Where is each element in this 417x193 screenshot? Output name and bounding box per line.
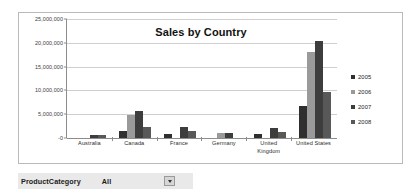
bar bbox=[217, 133, 225, 138]
bar bbox=[270, 128, 278, 138]
x-axis-labels: AustraliaCanadaFranceGermanyUnitedKingdo… bbox=[67, 140, 336, 155]
plot-area: Sales by Country 25,000,00020,000,00015,… bbox=[66, 19, 336, 154]
bar-group bbox=[158, 19, 203, 138]
parameter-dropdown-button[interactable] bbox=[164, 176, 175, 186]
bar-group bbox=[68, 19, 113, 138]
bar bbox=[323, 92, 331, 138]
bar bbox=[315, 41, 323, 138]
chart-frame: Sales by Country 25,000,00020,000,00015,… bbox=[18, 12, 403, 164]
bar-group bbox=[292, 19, 337, 138]
x-axis-label: United States bbox=[291, 140, 336, 155]
bar bbox=[98, 135, 106, 138]
x-axis-label: Canada bbox=[112, 140, 157, 155]
chevron-down-icon bbox=[168, 180, 172, 183]
x-axis-label: France bbox=[157, 140, 202, 155]
legend-swatch-icon bbox=[351, 105, 355, 109]
bar bbox=[143, 127, 151, 138]
y-axis-tick-label: 10,000,000 bbox=[35, 87, 63, 93]
parameter-value: All bbox=[102, 177, 112, 186]
y-axis-tick-label: -0 bbox=[58, 135, 63, 141]
bar bbox=[164, 134, 172, 138]
legend-label: 2007 bbox=[358, 104, 371, 110]
bar bbox=[254, 134, 262, 138]
parameter-label: ProductCategory bbox=[21, 177, 81, 186]
legend-swatch-icon bbox=[351, 120, 355, 124]
legend-item: 2007 bbox=[351, 99, 397, 114]
y-axis-tick-mark bbox=[64, 138, 67, 139]
plot-canvas: 25,000,00020,000,00015,000,00010,000,000… bbox=[66, 19, 336, 138]
y-axis-tick-label: 25,000,000 bbox=[35, 16, 63, 22]
bar bbox=[278, 132, 286, 138]
bar bbox=[90, 135, 98, 138]
legend-item: 2005 bbox=[351, 69, 397, 84]
bar bbox=[119, 131, 127, 138]
legend-label: 2006 bbox=[358, 89, 371, 95]
x-axis-label: UnitedKingdom bbox=[246, 140, 291, 155]
bar bbox=[127, 115, 135, 138]
bar bbox=[188, 131, 196, 138]
legend-swatch-icon bbox=[351, 90, 355, 94]
bar bbox=[225, 133, 233, 138]
legend-label: 2008 bbox=[358, 119, 371, 125]
y-axis-tick-label: 20,000,000 bbox=[35, 40, 63, 46]
y-axis-tick-label: 5,000,000 bbox=[38, 111, 63, 117]
bar bbox=[307, 52, 315, 138]
legend-swatch-icon bbox=[351, 75, 355, 79]
bar bbox=[180, 127, 188, 138]
y-axis-tick-mark bbox=[64, 114, 67, 115]
report-viewer: Sales by Country 25,000,00020,000,00015,… bbox=[0, 0, 417, 193]
bar-group bbox=[202, 19, 247, 138]
bar bbox=[135, 111, 143, 138]
y-axis-tick-mark bbox=[64, 42, 67, 43]
parameter-bar[interactable]: ProductCategory All bbox=[18, 173, 193, 189]
bar-group bbox=[247, 19, 292, 138]
y-axis-tick-mark bbox=[64, 66, 67, 67]
y-axis-tick-mark bbox=[64, 19, 67, 20]
x-axis-label: Australia bbox=[67, 140, 112, 155]
y-axis-tick-mark bbox=[64, 90, 67, 91]
bar-groups bbox=[68, 19, 337, 138]
bar-group bbox=[113, 19, 158, 138]
y-axis-tick-label: 15,000,000 bbox=[35, 64, 63, 70]
legend-item: 2008 bbox=[351, 114, 397, 129]
legend-item: 2006 bbox=[351, 84, 397, 99]
x-axis-label: Germany bbox=[201, 140, 246, 155]
bar bbox=[299, 106, 307, 138]
legend-label: 2005 bbox=[358, 74, 371, 80]
chart-legend: 2005200620072008 bbox=[351, 69, 397, 129]
